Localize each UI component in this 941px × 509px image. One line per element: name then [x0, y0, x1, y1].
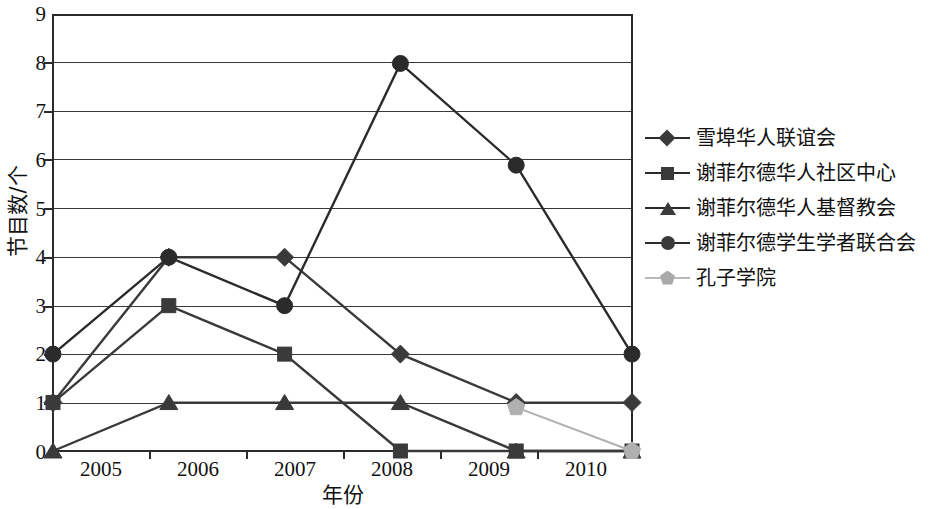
- gridline: [54, 306, 631, 307]
- y-axis-title: 节目数/个: [7, 141, 29, 281]
- legend-item-circle[interactable]: 谢菲尔德学生学者联合会: [645, 225, 941, 260]
- square-marker-icon: [661, 167, 674, 180]
- legend-item-label: 雪埠华人联谊会: [696, 127, 836, 149]
- circle-marker-icon: [661, 236, 675, 250]
- y-tick-mark: [44, 403, 52, 405]
- legend-item-label: 谢菲尔德华人社区中心: [696, 162, 896, 184]
- triangle-marker-key: [645, 199, 690, 217]
- gridline: [54, 111, 631, 112]
- x-tick-mark: [440, 452, 442, 459]
- gridline: [54, 159, 631, 160]
- y-tick-label: 7: [6, 101, 46, 122]
- circle-marker-key: [645, 234, 690, 252]
- chart-root: { "chart_data": { "type": "line", "title…: [0, 0, 941, 509]
- x-axis-title: 年份: [0, 484, 685, 506]
- x-tick-label: 2006: [153, 458, 243, 481]
- legend-item-label: 孔子学院: [696, 267, 776, 289]
- y-tick-label: 8: [6, 53, 46, 74]
- x-tick-mark: [246, 452, 248, 459]
- x-tick-mark: [537, 452, 539, 459]
- y-tick-mark: [44, 62, 52, 64]
- plot-area: [52, 14, 633, 452]
- chart-legend: 雪埠华人联谊会 谢菲尔德华人社区中心 谢菲尔德华人基督教会 谢菲尔德学生学者联合…: [645, 120, 941, 295]
- diamond-marker-key: [645, 129, 690, 147]
- y-tick-mark: [44, 208, 52, 210]
- diamond-marker-icon: [659, 129, 676, 146]
- pentagon-marker-icon: [660, 271, 675, 285]
- pentagon-marker-key: [645, 269, 690, 287]
- y-tick-mark: [44, 111, 52, 113]
- gridline: [54, 354, 631, 355]
- gridline: [54, 403, 631, 404]
- legend-item-triangle[interactable]: 谢菲尔德华人基督教会: [645, 190, 941, 225]
- x-tick-label: 2007: [250, 458, 340, 481]
- y-tick-label: 2: [6, 344, 46, 365]
- y-tick-mark: [44, 159, 52, 161]
- x-tick-label: 2009: [444, 458, 534, 481]
- y-tick-label: 0: [6, 442, 46, 463]
- gridline: [54, 62, 631, 63]
- legend-item-label: 谢菲尔德华人基督教会: [696, 197, 896, 219]
- y-tick-mark: [44, 257, 52, 259]
- x-tick-label: 2010: [541, 458, 631, 481]
- gridline: [54, 257, 631, 258]
- y-tick-mark: [44, 354, 52, 356]
- x-tick-label: 2005: [56, 458, 146, 481]
- legend-item-label: 谢菲尔德学生学者联合会: [696, 232, 916, 254]
- y-tick-label: 9: [6, 4, 46, 25]
- y-tick-mark: [44, 306, 52, 308]
- legend-item-square[interactable]: 谢菲尔德华人社区中心: [645, 155, 941, 190]
- y-tick-label: 3: [6, 296, 46, 317]
- y-tick-label: 1: [6, 393, 46, 414]
- square-marker-key: [645, 164, 690, 182]
- x-tick-mark: [343, 452, 345, 459]
- legend-item-diamond[interactable]: 雪埠华人联谊会: [645, 120, 941, 155]
- triangle-marker-icon: [660, 202, 676, 215]
- x-tick-label: 2008: [347, 458, 437, 481]
- x-tick-mark: [149, 452, 151, 459]
- gridline: [54, 208, 631, 209]
- legend-item-pentagon[interactable]: 孔子学院: [645, 260, 941, 295]
